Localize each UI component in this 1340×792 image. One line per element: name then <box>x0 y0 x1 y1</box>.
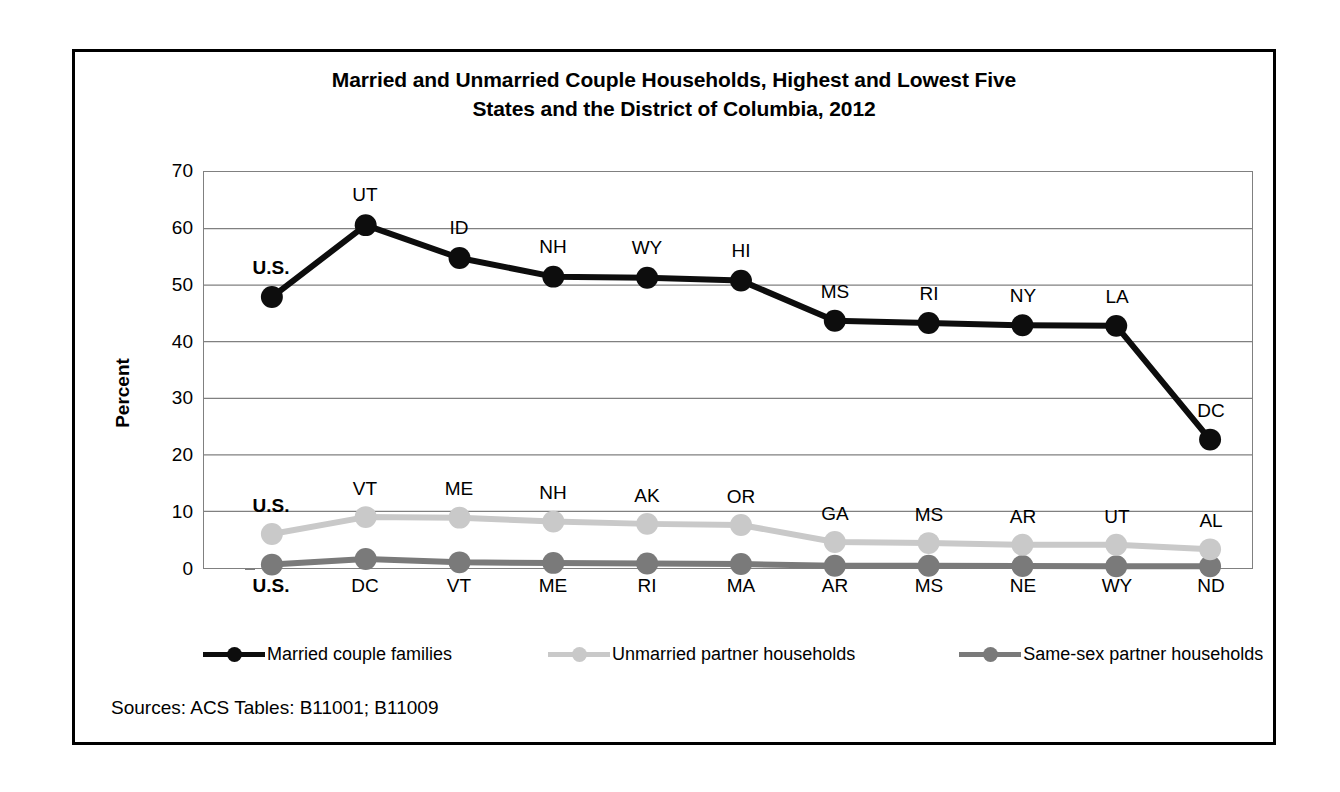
data-point-label: RI <box>889 283 969 305</box>
data-point-label: OR <box>701 486 781 508</box>
data-point-label: NH <box>513 482 593 504</box>
data-point-label: AR <box>983 506 1063 528</box>
data-point[interactable] <box>261 286 283 308</box>
chart-title-line-2: States and the District of Columbia, 201… <box>75 95 1273 124</box>
x-axis-tick-label: U.S. <box>231 575 311 597</box>
data-point-label: NY <box>983 285 1063 307</box>
legend-marker-icon <box>959 645 1021 663</box>
x-axis-tick-label: NE <box>983 575 1063 597</box>
y-axis-tick-label: 20 <box>145 444 193 466</box>
x-axis-tick-label: MA <box>701 575 781 597</box>
data-point[interactable] <box>918 532 940 554</box>
data-point-label: NH <box>513 236 593 258</box>
x-axis-tick-label: RI <box>607 575 687 597</box>
data-point[interactable] <box>449 507 471 529</box>
data-point[interactable] <box>636 513 658 535</box>
data-point-label: MS <box>795 281 875 303</box>
data-point[interactable] <box>1011 314 1033 336</box>
x-axis-tick-labels: U.S.DCVTMERIMAARMSNEWYND <box>203 575 1253 605</box>
data-point-label: AL <box>1171 510 1251 532</box>
data-point-label: GA <box>795 503 875 525</box>
data-point[interactable] <box>542 511 564 533</box>
x-axis-tick-label: AR <box>795 575 875 597</box>
data-point[interactable] <box>824 531 846 553</box>
legend-item[interactable]: Married couple families <box>203 644 452 665</box>
y-axis-tick-label: 70 <box>145 160 193 182</box>
data-point-label: U.S. <box>231 257 311 279</box>
data-point-label: HI <box>701 240 781 262</box>
data-point[interactable] <box>730 514 752 536</box>
data-point-label: WY <box>607 237 687 259</box>
x-axis-tick-label: WY <box>1077 575 1157 597</box>
x-axis-tick-label: VT <box>419 575 499 597</box>
data-point[interactable] <box>824 310 846 332</box>
y-axis-tick-label: 40 <box>145 331 193 353</box>
chart-title: Married and Unmarried Couple Households,… <box>75 66 1273 124</box>
y-axis-tick-label: 30 <box>145 387 193 409</box>
data-point[interactable] <box>261 554 283 576</box>
data-point[interactable] <box>1199 538 1221 560</box>
data-point[interactable] <box>449 247 471 269</box>
data-point-label: DC <box>1171 400 1251 422</box>
data-point[interactable] <box>542 552 564 574</box>
x-axis-tick-label: ND <box>1171 575 1251 597</box>
data-point[interactable] <box>1011 555 1033 577</box>
data-point[interactable] <box>449 551 471 573</box>
data-point-label: UT <box>325 184 405 206</box>
source-note: Sources: ACS Tables: B11001; B11009 <box>111 697 438 719</box>
data-point[interactable] <box>918 312 940 334</box>
data-point-label: LA <box>1077 286 1157 308</box>
data-point[interactable] <box>918 555 940 577</box>
data-point[interactable] <box>1011 534 1033 556</box>
x-axis-tick-label: DC <box>325 575 405 597</box>
data-point[interactable] <box>730 553 752 575</box>
data-point[interactable] <box>355 214 377 236</box>
data-point-label: ME <box>419 478 499 500</box>
legend-item[interactable]: Same-sex partner households <box>959 644 1263 665</box>
data-point[interactable] <box>1105 315 1127 337</box>
data-point[interactable] <box>355 506 377 528</box>
legend-label: Same-sex partner households <box>1023 644 1263 665</box>
y-axis-tick-label: 60 <box>145 217 193 239</box>
legend-marker-icon <box>203 645 265 663</box>
data-point[interactable] <box>261 523 283 545</box>
data-point[interactable] <box>1199 429 1221 451</box>
chart-title-line-1: Married and Unmarried Couple Households,… <box>332 68 1016 91</box>
data-point[interactable] <box>355 548 377 570</box>
data-point[interactable] <box>636 267 658 289</box>
data-point[interactable] <box>636 553 658 575</box>
x-axis-tick-label: ME <box>513 575 593 597</box>
legend-label: Unmarried partner households <box>612 644 855 665</box>
data-point[interactable] <box>1105 534 1127 556</box>
x-axis-tick-label: MS <box>889 575 969 597</box>
data-point-label: ID <box>419 217 499 239</box>
data-point-label: AK <box>607 485 687 507</box>
legend-marker-icon <box>548 645 610 663</box>
y-axis-tick-mark <box>245 569 255 570</box>
data-point-label: MS <box>889 504 969 526</box>
y-axis-tick-labels: 706050403020100 <box>135 171 193 569</box>
data-point-label: UT <box>1077 506 1157 528</box>
legend-item[interactable]: Unmarried partner households <box>548 644 855 665</box>
data-point-label: VT <box>325 478 405 500</box>
data-point[interactable] <box>542 266 564 288</box>
data-point[interactable] <box>730 270 752 292</box>
y-axis-tick-label: 10 <box>145 501 193 523</box>
chart-legend: Married couple familiesUnmarried partner… <box>203 637 1303 671</box>
data-point-label: U.S. <box>231 495 311 517</box>
data-point[interactable] <box>1105 555 1127 577</box>
y-axis-tick-label: 50 <box>145 274 193 296</box>
figure-frame: Married and Unmarried Couple Households,… <box>72 49 1276 745</box>
y-axis-title: Percent <box>112 323 134 463</box>
data-point[interactable] <box>824 555 846 577</box>
legend-label: Married couple families <box>267 644 452 665</box>
y-axis-tick-label: 0 <box>145 558 193 580</box>
